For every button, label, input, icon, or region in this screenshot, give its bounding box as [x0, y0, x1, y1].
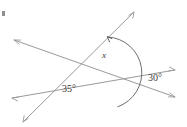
- corner-artifact-speck: [2, 11, 5, 16]
- line-a-segment: [14, 40, 175, 97]
- left-angle-label: 35°: [62, 83, 76, 94]
- geometry-figure-canvas: x 35° 30°: [0, 0, 187, 127]
- angle-x-arc: [108, 37, 142, 107]
- unknown-angle-label: x: [101, 50, 106, 60]
- line-c-end-arrowhead-icon: [169, 67, 175, 71]
- line-b-segment: [23, 12, 134, 122]
- line-c-start-arrowhead-icon: [12, 97, 18, 101]
- line-upper-left-to-lower-right: [14, 40, 175, 97]
- angle-x-arc-group: [107, 37, 142, 107]
- right-angle-label: 30°: [148, 72, 162, 83]
- geometry-diagram-svg: x 35° 30°: [0, 0, 187, 127]
- line-lower-left-to-upper-right: [23, 12, 134, 122]
